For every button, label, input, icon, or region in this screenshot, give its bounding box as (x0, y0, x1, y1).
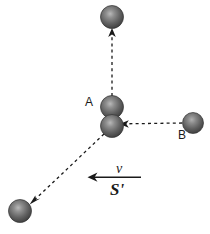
label-ball-b: B (178, 129, 186, 141)
arrow-a-up (108, 28, 116, 96)
figure-canvas (0, 0, 210, 234)
label-ball-a: A (85, 96, 93, 108)
sphere-bottom-outgoing (9, 200, 32, 223)
label-velocity: v (116, 162, 122, 176)
sphere-top-outgoing (101, 6, 124, 29)
arrow-b-left (120, 120, 183, 128)
physics-collision-figure: A B v S' (0, 0, 210, 234)
arrow-diagonal-down-left (30, 134, 104, 205)
sphere-collision-center (101, 115, 124, 138)
label-reference-frame: S' (110, 181, 124, 198)
